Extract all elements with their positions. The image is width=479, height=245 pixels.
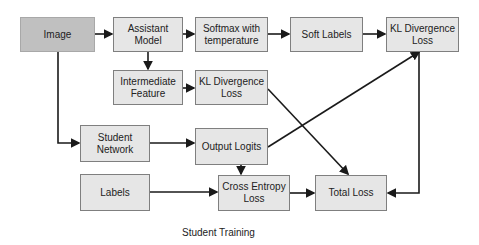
node-assistant-model: Assistant Model bbox=[113, 17, 183, 52]
node-kl-divergence-loss-top: KL Divergence Loss bbox=[386, 17, 459, 52]
node-intermediate-feature: Intermediate Feature bbox=[113, 70, 183, 105]
diagram-caption: Student Training bbox=[182, 227, 255, 238]
node-labels: Labels bbox=[80, 174, 150, 211]
node-output-logits: Output Logits bbox=[195, 128, 268, 165]
node-image: Image bbox=[20, 17, 95, 52]
node-kl-divergence-loss-middle: KL Divergence Loss bbox=[195, 70, 268, 105]
node-student-network: Student Network bbox=[80, 125, 150, 162]
node-soft-labels: Soft Labels bbox=[290, 17, 363, 52]
node-cross-entropy-loss: Cross Entropy Loss bbox=[218, 175, 290, 211]
node-softmax-with-temperature: Softmax with temperature bbox=[195, 17, 268, 52]
node-total-loss: Total Loss bbox=[315, 175, 387, 211]
